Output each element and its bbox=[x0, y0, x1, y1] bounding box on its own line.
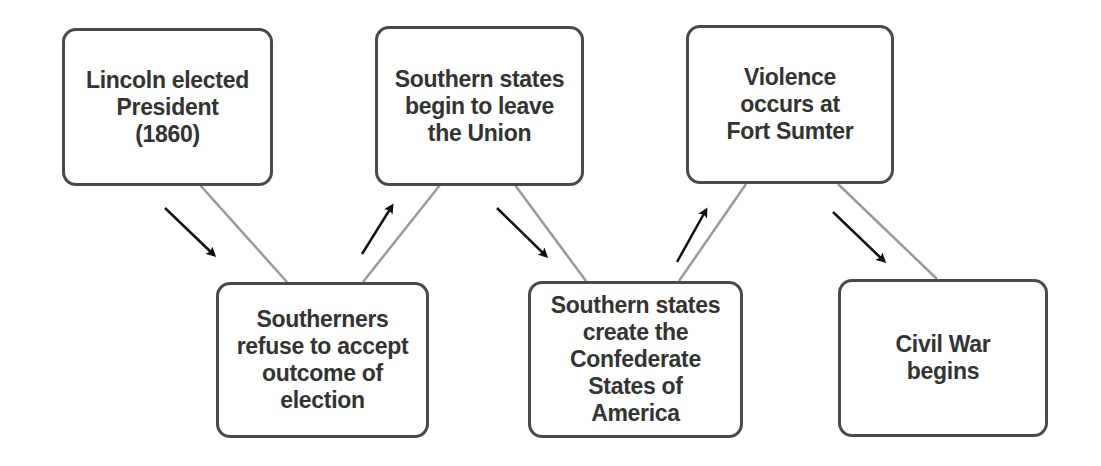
node-civil-war-begins: Civil War begins bbox=[838, 279, 1048, 437]
node-label: Lincoln elected President (1860) bbox=[86, 67, 249, 148]
node-lincoln-elected: Lincoln elected President (1860) bbox=[62, 28, 273, 186]
node-label: Southern states begin to leave the Union bbox=[395, 66, 564, 147]
node-label: Southerners refuse to accept outcome of … bbox=[237, 306, 409, 414]
node-fort-sumter: Violence occurs at Fort Sumter bbox=[686, 25, 894, 184]
arrow-up-right-icon bbox=[677, 210, 706, 262]
node-states-leave-union: Southern states begin to leave the Union bbox=[375, 26, 584, 186]
node-label: Civil War begins bbox=[896, 331, 991, 385]
arrow-down-right-icon bbox=[165, 208, 214, 255]
node-label: Violence occurs at Fort Sumter bbox=[726, 64, 853, 145]
node-label: Southern states create the Confederate S… bbox=[551, 292, 720, 427]
arrow-up-right-icon bbox=[362, 206, 392, 254]
connector-line-n4-n5 bbox=[679, 184, 746, 281]
connector-line-n1-n2 bbox=[200, 185, 287, 282]
connector-line-n3-n4 bbox=[515, 185, 586, 281]
node-create-confederacy: Southern states create the Confederate S… bbox=[528, 281, 743, 438]
node-southerners-refuse: Southerners refuse to accept outcome of … bbox=[216, 282, 429, 438]
